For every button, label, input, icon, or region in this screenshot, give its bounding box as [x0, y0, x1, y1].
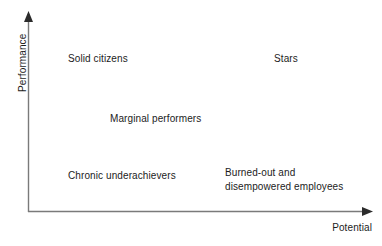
- performance-potential-matrix: Performance Potential Solid citizens Sta…: [0, 0, 382, 246]
- x-axis-label: Potential: [332, 222, 372, 233]
- quadrant-label-stars: Stars: [274, 52, 298, 66]
- quadrant-label-marginal-performers: Marginal performers: [110, 112, 201, 126]
- quadrant-label-chronic-underachievers: Chronic underachievers: [68, 169, 176, 183]
- y-axis-label: Performance: [17, 0, 28, 92]
- quadrant-label-burned-out-employees: Burned-out and disempowered employees: [225, 166, 343, 193]
- burned-out-line-2: disempowered employees: [225, 180, 343, 194]
- burned-out-line-1: Burned-out and: [225, 166, 343, 180]
- x-axis-arrowhead: [362, 207, 373, 216]
- quadrant-label-solid-citizens: Solid citizens: [68, 52, 128, 66]
